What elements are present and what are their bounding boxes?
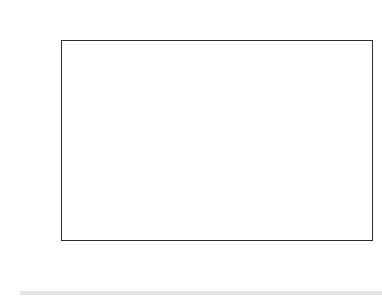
page-edge-divider	[20, 291, 382, 295]
plot-area	[61, 40, 373, 241]
